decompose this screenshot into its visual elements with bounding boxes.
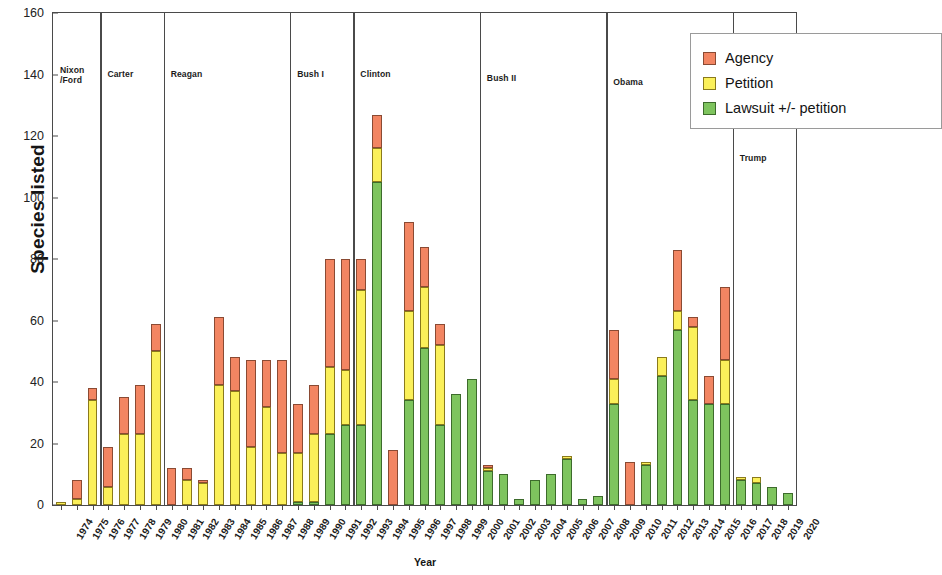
bar-2019 — [767, 487, 777, 505]
x-axis-tick-label: 1983 — [216, 517, 237, 542]
bar-segment-petition — [435, 345, 445, 425]
bar-segment-petition — [309, 434, 319, 502]
bar-segment-petition — [356, 290, 366, 425]
administration-label: Clinton — [360, 69, 390, 79]
administration-divider — [164, 13, 165, 505]
x-axis-tick-mark — [77, 505, 78, 510]
bar-1998 — [435, 324, 445, 505]
y-axis-tick-label: 160 — [23, 6, 53, 20]
x-axis-tick-mark — [266, 505, 267, 510]
administration-label: Nixon /Ford — [60, 65, 84, 86]
bar-segment-agency — [720, 287, 730, 361]
bar-1989 — [293, 404, 303, 505]
bar-segment-lawsuit — [641, 465, 651, 505]
y-axis-tick-label: 80 — [30, 252, 53, 266]
x-axis-tick-mark — [709, 505, 710, 510]
bar-segment-agency — [135, 385, 145, 434]
legend-label-lawsuit: Lawsuit +/- petition — [725, 100, 846, 116]
x-axis-tick-mark — [393, 505, 394, 510]
bar-segment-lawsuit — [704, 404, 714, 505]
x-axis-tick-mark — [251, 505, 252, 510]
bar-segment-lawsuit — [609, 404, 619, 505]
bar-segment-petition — [230, 391, 240, 505]
x-axis-tick-mark — [567, 505, 568, 510]
bar-segment-petition — [262, 407, 272, 505]
administration-divider — [353, 13, 354, 505]
x-axis-tick-mark — [282, 505, 283, 510]
bar-2017 — [736, 477, 746, 505]
administration-divider — [480, 13, 481, 505]
bar-segment-petition — [88, 400, 98, 505]
bar-segment-lawsuit — [483, 471, 493, 505]
bar-2010 — [625, 462, 635, 505]
bar-segment-petition — [325, 367, 335, 435]
bar-segment-lawsuit — [736, 480, 746, 505]
x-axis-tick-mark — [646, 505, 647, 510]
y-axis-tick-label: 40 — [30, 375, 53, 389]
bar-segment-agency — [182, 468, 192, 480]
y-axis-tick-mark — [53, 136, 58, 137]
bar-segment-lawsuit — [530, 480, 540, 505]
bar-segment-agency — [609, 330, 619, 379]
bar-segment-agency — [151, 324, 161, 352]
bar-2008 — [593, 496, 603, 505]
x-axis-tick-mark — [756, 505, 757, 510]
bar-segment-lawsuit — [562, 459, 572, 505]
bar-2018 — [752, 477, 762, 505]
bar-2011 — [641, 462, 651, 505]
x-axis-tick-mark — [172, 505, 173, 510]
y-axis-tick-label: 20 — [30, 437, 53, 451]
administration-label: Trump — [740, 153, 767, 163]
bar-2009 — [609, 330, 619, 505]
bar-segment-lawsuit — [372, 182, 382, 505]
x-axis-tick-mark — [440, 505, 441, 510]
bar-segment-petition — [135, 434, 145, 505]
bar-1995 — [388, 450, 398, 505]
bar-2002 — [499, 474, 509, 505]
y-axis-tick-label: 140 — [23, 68, 53, 82]
x-axis-tick-mark — [583, 505, 584, 510]
x-axis-tick-mark — [551, 505, 552, 510]
legend-swatch-petition-icon — [703, 77, 716, 90]
bar-segment-petition — [182, 480, 192, 505]
x-axis-tick-mark — [314, 505, 315, 510]
bar-2001 — [483, 465, 493, 505]
administration-label: Obama — [613, 77, 643, 87]
bar-segment-lawsuit — [404, 400, 414, 505]
bar-2020 — [783, 493, 793, 505]
x-axis-tick-mark — [124, 505, 125, 510]
legend-label-agency: Agency — [725, 50, 773, 66]
bar-segment-agency — [388, 450, 398, 505]
bar-1981 — [167, 468, 177, 505]
bar-segment-petition — [688, 327, 698, 401]
bar-segment-lawsuit — [420, 348, 430, 505]
y-axis-tick-mark — [53, 197, 58, 198]
bar-segment-lawsuit — [341, 425, 351, 505]
x-axis-tick-mark — [409, 505, 410, 510]
bar-segment-petition — [119, 434, 129, 505]
bar-segment-agency — [214, 317, 224, 385]
bar-segment-lawsuit — [451, 394, 461, 505]
x-axis-tick-mark — [535, 505, 536, 510]
x-axis-tick-mark — [187, 505, 188, 510]
legend-item-agency: Agency — [703, 50, 931, 66]
bar-2012 — [657, 357, 667, 505]
x-axis-tick-mark — [772, 505, 773, 510]
administration-divider — [100, 13, 101, 505]
bar-1991 — [325, 259, 335, 505]
y-axis-tick-mark — [53, 443, 58, 444]
bar-segment-agency — [119, 397, 129, 434]
bar-segment-agency — [167, 468, 177, 505]
bar-segment-agency — [103, 447, 113, 487]
x-axis-tick-mark — [677, 505, 678, 510]
bar-segment-agency — [88, 388, 98, 400]
bar-segment-agency — [625, 462, 635, 505]
bar-segment-lawsuit — [435, 425, 445, 505]
bar-segment-agency — [435, 324, 445, 346]
bar-segment-petition — [720, 360, 730, 403]
bar-2015 — [704, 376, 714, 505]
bar-segment-petition — [372, 148, 382, 182]
x-axis-tick-mark — [425, 505, 426, 510]
legend-item-lawsuit: Lawsuit +/- petition — [703, 100, 931, 116]
